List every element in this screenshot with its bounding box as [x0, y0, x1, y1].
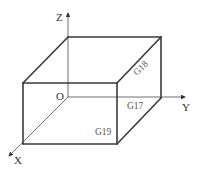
- box-outline: [23, 37, 161, 144]
- coordinate-box-diagram: Z Y X O G17 G19 G18: [0, 0, 202, 177]
- origin-label: O: [56, 90, 64, 102]
- plane-label-g19: G19: [95, 127, 112, 137]
- plane-label-g17: G17: [127, 101, 144, 111]
- y-axis-label: Y: [182, 101, 190, 113]
- z-axis-label: Z: [56, 11, 63, 23]
- plane-label-g18: G18: [131, 59, 150, 78]
- x-axis: [9, 97, 68, 156]
- x-axis-label: X: [14, 154, 22, 166]
